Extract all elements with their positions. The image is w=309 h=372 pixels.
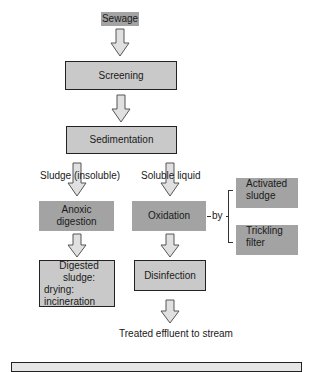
connector-line xyxy=(207,216,211,217)
digested-line2: drying: xyxy=(44,284,74,296)
down-arrow-icon xyxy=(160,300,180,324)
down-arrow-icon xyxy=(111,95,131,123)
by-label: by xyxy=(212,210,223,221)
anoxic-digestion-node: Anoxic digestion xyxy=(39,201,114,231)
screening-node: Screening xyxy=(65,61,177,90)
liquid-branch-label: Soluble liquid xyxy=(141,170,201,181)
output-label: Treated effluent to stream xyxy=(119,328,233,339)
anoxic-line2: digestion xyxy=(56,216,96,228)
oxidation-label: Oxidation xyxy=(148,210,190,222)
digested-line1: Digested sludge: xyxy=(44,260,114,284)
caption-box xyxy=(11,362,302,372)
anoxic-line1: Anoxic xyxy=(61,204,91,216)
sludge-branch-label: Sludge (insoluble) xyxy=(40,170,120,181)
activated-line2: sludge xyxy=(246,190,275,202)
digested-line3: incineration xyxy=(44,296,95,308)
trickling-line1: Trickling xyxy=(246,225,283,237)
bracket xyxy=(228,190,233,243)
oxidation-node: Oxidation xyxy=(132,201,206,231)
activated-sludge-node: Activated sludge xyxy=(236,178,298,208)
activated-line1: Activated xyxy=(246,178,287,190)
trickling-line2: filter xyxy=(246,237,265,249)
sedimentation-node: Sedimentation xyxy=(66,126,177,154)
sedimentation-label: Sedimentation xyxy=(90,134,154,146)
trickling-filter-node: Trickling filter xyxy=(236,225,298,255)
down-arrow-icon xyxy=(67,234,87,258)
disinfection-label: Disinfection xyxy=(144,270,196,282)
sewage-label: Sewage xyxy=(102,13,138,25)
screening-label: Screening xyxy=(98,70,143,82)
down-arrow-icon xyxy=(110,29,130,57)
digested-sludge-node: Digested sludge: drying: incineration xyxy=(39,260,115,307)
disinfection-node: Disinfection xyxy=(134,260,206,291)
sewage-node: Sewage xyxy=(101,12,139,26)
down-arrow-icon xyxy=(160,234,180,258)
